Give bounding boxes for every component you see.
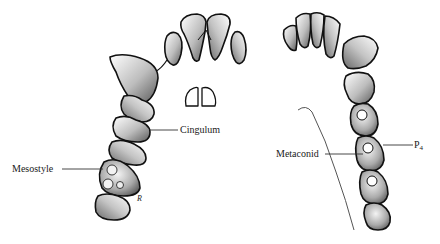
label-cingulum: Cingulum [180, 124, 220, 136]
lower-arch [284, 13, 391, 230]
label-mesostyle: Mesostyle [12, 163, 53, 175]
lower-molar-1 [360, 170, 388, 204]
lower-incisor-2 [296, 14, 311, 48]
upper-canine [110, 55, 158, 103]
dental-arches-illustration [0, 0, 440, 244]
label-p4: P4 [414, 139, 423, 154]
upper-lateral-left [165, 32, 182, 65]
lower-canine [343, 36, 378, 69]
incisive-foramen-right [202, 88, 216, 107]
upper-molar-2 [95, 194, 130, 220]
upper-arch [95, 14, 246, 220]
artist-signature: R [137, 194, 142, 203]
label-p4-subscript: 4 [420, 144, 424, 152]
lower-incisor-1 [284, 26, 298, 51]
upper-lateral-right [231, 32, 246, 64]
lower-molar-2 [364, 203, 390, 230]
upper-incisor-right [207, 14, 230, 60]
lower-premolar-4 [356, 136, 384, 171]
dental-diagram: Cingulum Mesostyle Metaconid P4 R [0, 0, 440, 244]
incisive-foramen-left [186, 87, 199, 106]
lower-premolar-1 [344, 72, 374, 104]
label-metaconid: Metaconid [276, 148, 319, 160]
lower-incisor-3 [311, 13, 324, 48]
lower-incisor-4 [324, 16, 340, 58]
upper-incisor-left [181, 14, 206, 61]
mandible-line [298, 107, 354, 230]
